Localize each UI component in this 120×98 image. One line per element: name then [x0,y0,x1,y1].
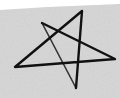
star-icon [0,0,120,98]
star-drawing [0,0,120,98]
